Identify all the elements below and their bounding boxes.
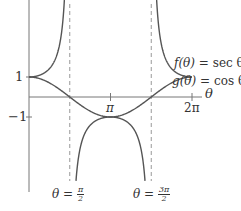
asymptote-label-left: θ = π 2	[52, 186, 84, 203]
asymptote-right-fraction: 3π 2	[158, 186, 170, 203]
x-axis-label: θ	[205, 87, 213, 100]
legend-cos-eq: = cos θ	[200, 74, 241, 88]
asymptote-left-fraction: π 2	[77, 186, 84, 203]
asymptote-left-den: 2	[77, 195, 84, 203]
y-tick-label-minus-1: −1	[8, 110, 27, 123]
legend-sec: f(θ) = sec θ	[174, 57, 241, 69]
x-tick-label-2pi: 2π	[184, 102, 200, 114]
asymptote-label-right: θ = 3π 2	[133, 186, 170, 203]
sec-curve-branch	[76, 117, 145, 181]
asymptote-right-den: 2	[158, 195, 170, 203]
legend-sec-fn: f(θ)	[174, 56, 195, 70]
y-tick-label-1: 1	[15, 70, 23, 83]
sec-curve-branch	[29, 0, 64, 77]
legend-sec-eq: = sec θ	[199, 56, 241, 70]
plot-area	[0, 0, 241, 211]
legend-cos: g(θ) = cos θ	[172, 75, 241, 87]
legend-cos-fn: g(θ)	[172, 74, 196, 88]
x-tick-label-pi: π	[106, 102, 114, 114]
asymptote-left-lhs: θ =	[52, 187, 73, 201]
asymptote-right-lhs: θ =	[133, 187, 154, 201]
